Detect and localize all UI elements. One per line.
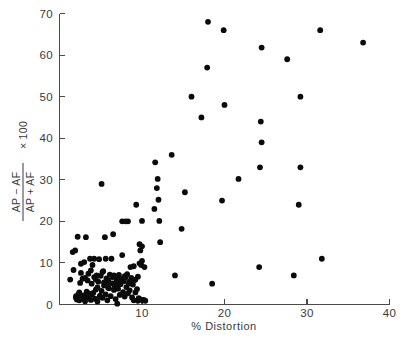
data-point <box>142 264 148 270</box>
data-point <box>222 102 228 108</box>
y-tick-label: 60 <box>39 49 53 61</box>
data-point <box>71 267 77 273</box>
y-tick-label: 40 <box>39 132 53 144</box>
y-tick-label: 30 <box>39 174 53 186</box>
data-point <box>152 159 158 165</box>
y-axis-denominator: AP + AF <box>24 172 36 213</box>
data-point <box>72 248 78 254</box>
y-tick-label: 20 <box>39 215 53 227</box>
data-point <box>298 94 304 100</box>
data-point <box>90 262 96 268</box>
data-point <box>134 286 140 292</box>
data-point <box>73 295 79 301</box>
data-point <box>221 27 227 33</box>
y-axis-title-group: AP − AF AP + AF × 100 <box>10 121 36 221</box>
data-point <box>205 19 211 25</box>
data-point <box>256 264 262 270</box>
data-point <box>258 119 264 125</box>
data-point <box>75 234 81 240</box>
data-point <box>156 197 162 203</box>
y-axis-ticks: 010203040506070 <box>39 8 65 311</box>
x-tick-label: 20 <box>218 307 232 319</box>
data-point <box>83 234 89 240</box>
data-point <box>319 256 325 262</box>
scatter-plot-figure: 010203040506070 010203040 % Distortion A… <box>0 0 406 338</box>
data-point <box>139 218 145 224</box>
data-point <box>88 268 94 274</box>
data-point <box>298 164 304 170</box>
data-point <box>89 292 95 298</box>
data-point <box>139 243 145 249</box>
data-point <box>110 231 116 237</box>
data-point <box>114 301 120 307</box>
data-point <box>127 287 133 293</box>
data-point <box>139 258 145 264</box>
data-point <box>100 269 106 275</box>
data-point <box>67 277 73 283</box>
data-points-layer <box>67 19 366 307</box>
data-point <box>257 164 263 170</box>
data-point <box>127 279 133 285</box>
data-point <box>151 206 157 212</box>
data-point <box>101 280 107 286</box>
data-point <box>99 181 105 187</box>
x-tick-label: 30 <box>300 307 314 319</box>
data-point <box>291 273 297 279</box>
data-point <box>106 280 112 286</box>
data-point <box>154 185 160 191</box>
x-tick-label: 10 <box>135 307 149 319</box>
data-point <box>259 139 265 145</box>
data-point <box>157 239 163 245</box>
y-axis-multiplier: × 100 <box>17 121 29 149</box>
data-point <box>108 293 114 299</box>
data-point <box>76 290 82 296</box>
plot-svg: 010203040506070 010203040 % Distortion A… <box>0 0 406 338</box>
data-point <box>259 45 265 51</box>
y-tick-label: 70 <box>39 8 53 20</box>
data-point <box>155 176 161 182</box>
data-point <box>102 234 108 240</box>
data-point <box>78 270 84 276</box>
data-point <box>142 298 148 304</box>
data-point <box>97 294 103 300</box>
data-point <box>296 202 302 208</box>
data-point <box>204 65 210 71</box>
y-axis-numerator: AP − AF <box>10 172 22 213</box>
data-point <box>81 259 87 265</box>
data-point <box>169 152 175 158</box>
x-tick-label: 40 <box>383 307 397 319</box>
data-point <box>103 256 109 262</box>
data-point <box>219 198 225 204</box>
data-point <box>133 202 139 208</box>
data-point <box>91 256 97 262</box>
x-axis-title: % Distortion <box>191 320 256 332</box>
data-point <box>179 226 185 232</box>
data-point <box>111 273 117 279</box>
data-point <box>360 40 366 46</box>
y-tick-label: 0 <box>46 299 53 311</box>
data-point <box>122 273 128 279</box>
y-tick-label: 50 <box>39 91 53 103</box>
data-point <box>95 285 101 291</box>
data-point <box>156 218 162 224</box>
data-point <box>116 279 122 285</box>
data-point <box>93 277 99 283</box>
data-point <box>236 176 242 182</box>
data-point <box>96 256 102 262</box>
data-point <box>189 94 195 100</box>
data-point <box>82 275 88 281</box>
data-point <box>199 115 205 121</box>
y-tick-label: 10 <box>39 257 53 269</box>
data-point <box>119 252 125 258</box>
data-point <box>105 285 111 291</box>
data-point <box>81 294 87 300</box>
data-point <box>109 256 115 262</box>
data-point <box>133 277 139 283</box>
data-point <box>284 56 290 62</box>
data-point <box>172 273 178 279</box>
data-point <box>317 27 323 33</box>
data-point <box>209 281 215 287</box>
data-point <box>131 263 137 269</box>
data-point <box>182 189 188 195</box>
data-point <box>103 292 109 298</box>
